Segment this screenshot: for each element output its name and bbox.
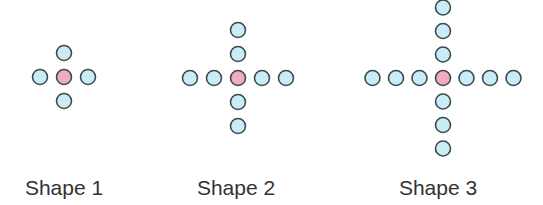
center-circle	[436, 71, 451, 86]
shape-3-label: Shape 3	[399, 176, 477, 200]
outer-circle	[459, 71, 474, 86]
outer-circle	[389, 71, 404, 86]
center-circle	[231, 71, 246, 86]
outer-circle	[81, 70, 96, 85]
outer-circle	[57, 46, 72, 61]
outer-circle	[436, 94, 451, 109]
outer-circle	[436, 0, 451, 15]
outer-circle	[231, 119, 246, 134]
outer-circle	[255, 71, 270, 86]
shape-2	[183, 23, 294, 134]
outer-circle	[436, 47, 451, 62]
shape-1-label: Shape 1	[25, 176, 103, 200]
outer-circle	[412, 71, 427, 86]
shape-2-label: Shape 2	[197, 176, 275, 200]
outer-circle	[279, 71, 294, 86]
outer-circle	[33, 70, 48, 85]
outer-circle	[436, 141, 451, 156]
outer-circle	[231, 95, 246, 110]
outer-circle	[506, 71, 521, 86]
outer-circle	[436, 118, 451, 133]
shapes-diagram	[0, 0, 543, 205]
outer-circle	[57, 94, 72, 109]
outer-circle	[231, 23, 246, 38]
shape-3	[365, 0, 521, 156]
shape-1	[33, 46, 96, 109]
outer-circle	[483, 71, 498, 86]
outer-circle	[365, 71, 380, 86]
outer-circle	[436, 24, 451, 39]
outer-circle	[231, 47, 246, 62]
outer-circle	[207, 71, 222, 86]
center-circle	[57, 70, 72, 85]
outer-circle	[183, 71, 198, 86]
